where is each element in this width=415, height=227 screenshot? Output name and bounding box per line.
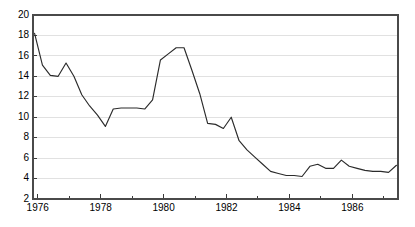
y-tick-label-16: 16: [18, 50, 30, 61]
x-tick-label-1980: 1980: [152, 202, 175, 213]
y-tick-label-6: 6: [23, 152, 29, 163]
plot-frame: [33, 15, 398, 199]
y-tick-label-10: 10: [18, 111, 30, 122]
y-tick-label-14: 14: [18, 70, 30, 81]
y-tick-label-8: 8: [23, 131, 29, 142]
data-series-line: [35, 33, 397, 176]
gridlines-group: [33, 35, 398, 178]
x-axis-ticks-group: [38, 194, 384, 199]
line-chart: 2468101214161820 19761978198019821984198…: [0, 0, 415, 227]
x-tick-label-1976: 1976: [27, 202, 50, 213]
x-tick-label-1978: 1978: [90, 202, 113, 213]
y-tick-label-12: 12: [18, 90, 30, 101]
y-axis-labels-group: 2468101214161820: [18, 9, 30, 204]
y-tick-label-4: 4: [23, 172, 29, 183]
x-tick-label-1982: 1982: [215, 202, 238, 213]
x-tick-label-1984: 1984: [278, 202, 301, 213]
x-axis-labels-group: 197619781980198219841986: [27, 202, 364, 213]
y-tick-label-18: 18: [18, 29, 30, 40]
x-tick-label-1986: 1986: [341, 202, 364, 213]
chart-container: 2468101214161820 19761978198019821984198…: [0, 0, 415, 227]
y-tick-label-20: 20: [18, 9, 30, 20]
